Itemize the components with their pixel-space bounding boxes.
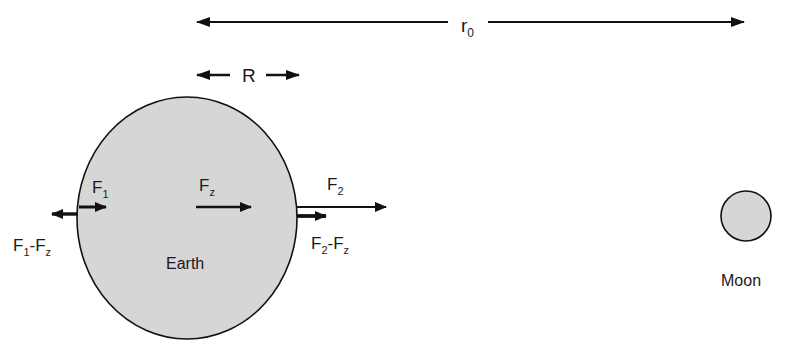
force-f2: F2 xyxy=(297,175,386,207)
moon: Moon xyxy=(721,191,771,289)
force-f2-minus-fz: F2-Fz xyxy=(297,216,349,256)
tidal-force-diagram: r0 R Earth Moon F1 F1-Fz Fz F2 F2-Fz xyxy=(0,0,793,347)
earth: Earth xyxy=(77,97,297,339)
moon-body xyxy=(721,191,771,241)
force-f1-minus-fz-label: F1-Fz xyxy=(13,236,51,258)
radius-label: R xyxy=(242,65,256,86)
distance-r0-arrow: r0 xyxy=(197,15,744,40)
force-f2-label: F2 xyxy=(327,175,344,197)
distance-label: r0 xyxy=(461,15,474,40)
earth-label: Earth xyxy=(166,255,204,272)
force-f1-minus-fz: F1-Fz xyxy=(13,214,78,258)
radius-indicator: R xyxy=(197,65,299,86)
moon-label: Moon xyxy=(721,272,761,289)
force-f2-minus-fz-label: F2-Fz xyxy=(311,234,349,256)
earth-body xyxy=(77,97,297,339)
